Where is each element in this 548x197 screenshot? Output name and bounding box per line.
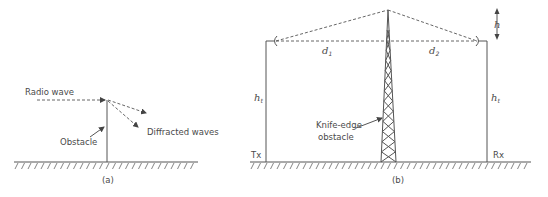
diffracted-path-tx xyxy=(276,10,388,41)
hatch-stroke xyxy=(394,163,397,169)
hatch-stroke xyxy=(15,163,18,169)
radio-wave-label: Radio wave xyxy=(25,87,74,97)
hatch-stroke xyxy=(271,163,274,169)
hatch-stroke xyxy=(433,163,436,169)
hatch-stroke xyxy=(87,163,90,169)
hatch-stroke xyxy=(316,163,319,169)
hatch-stroke xyxy=(145,163,148,169)
diffraction-diagram: Radio wave Diffracted waves Obstacle (a)… xyxy=(0,0,548,197)
hatch-stroke xyxy=(323,163,326,169)
hatch-stroke xyxy=(100,163,103,169)
hatch-stroke xyxy=(453,163,456,169)
h-label: h xyxy=(494,19,500,30)
hatch-stroke xyxy=(329,163,332,169)
hatch-stroke xyxy=(310,163,313,169)
ht-right-label: ht xyxy=(491,92,500,104)
h-arrow-down-icon xyxy=(495,34,500,40)
hatch-stroke xyxy=(290,163,293,169)
hatch-stroke xyxy=(80,163,83,169)
knife-edge-label-line2: obstacle xyxy=(318,132,354,142)
hatch-stroke xyxy=(61,163,64,169)
rx-antenna-pole xyxy=(479,41,487,162)
knife-edge-label-line1: Knife-edge xyxy=(316,120,362,130)
hatch-stroke xyxy=(22,163,25,169)
hatch-stroke xyxy=(184,163,187,169)
figure-b: d1 d2 h ht ht Tx Rx Knife-edge obstacle … xyxy=(250,8,531,185)
hatch-stroke xyxy=(165,163,168,169)
hatch-stroke xyxy=(388,163,391,169)
hatch-stroke xyxy=(362,163,365,169)
hatch-stroke xyxy=(171,163,174,169)
diffracted-waves-label: Diffracted waves xyxy=(147,127,219,137)
hatch-stroke xyxy=(258,163,261,169)
hatch-stroke xyxy=(41,163,44,169)
hatch-stroke xyxy=(28,163,31,169)
hatch-stroke xyxy=(466,163,469,169)
hatch-stroke xyxy=(113,163,116,169)
hatch-stroke xyxy=(35,163,38,169)
obstacle-pointer-arrow xyxy=(90,127,104,137)
hatch-stroke xyxy=(407,163,410,169)
knife-edge-tower xyxy=(381,10,396,162)
hatch-stroke xyxy=(368,163,371,169)
obstacle-label: Obstacle xyxy=(60,137,97,147)
hatch-stroke xyxy=(132,163,135,169)
hatch-stroke xyxy=(336,163,339,169)
hatch-stroke xyxy=(440,163,443,169)
hatch-stroke xyxy=(381,163,384,169)
d1-label: d1 xyxy=(322,45,332,57)
tx-label: Tx xyxy=(250,150,261,160)
hatch-stroke xyxy=(472,163,475,169)
hatch-stroke xyxy=(48,163,51,169)
hatch-stroke xyxy=(420,163,423,169)
d2-label: d2 xyxy=(429,45,439,57)
figure-a: Radio wave Diffracted waves Obstacle (a) xyxy=(14,87,219,185)
hatch-stroke xyxy=(505,163,508,169)
hatch-stroke xyxy=(414,163,417,169)
hatch-stroke xyxy=(264,163,267,169)
hatch-stroke xyxy=(191,163,194,169)
hatch-stroke xyxy=(459,163,462,169)
hatch-stroke xyxy=(158,163,161,169)
hatch-stroke xyxy=(524,163,527,169)
hatch-stroke xyxy=(479,163,482,169)
hatch-stroke xyxy=(349,163,352,169)
hatch-stroke xyxy=(446,163,449,169)
diffracted-path-rx xyxy=(388,10,477,41)
hatch-stroke xyxy=(139,163,142,169)
hatch-stroke xyxy=(67,163,70,169)
hatch-stroke xyxy=(106,163,109,169)
hatch-stroke xyxy=(518,163,521,169)
hatch-stroke xyxy=(74,163,77,169)
ground-hatch-a xyxy=(15,163,194,169)
hatch-stroke xyxy=(54,163,57,169)
caption-a: (a) xyxy=(102,175,114,185)
caption-b: (b) xyxy=(392,175,404,185)
tx-antenna-pole xyxy=(266,41,274,162)
hatch-stroke xyxy=(511,163,514,169)
hatch-stroke xyxy=(251,163,254,169)
hatch-stroke xyxy=(277,163,280,169)
hatch-stroke xyxy=(342,163,345,169)
hatch-stroke xyxy=(401,163,404,169)
hatch-stroke xyxy=(152,163,155,169)
hatch-stroke xyxy=(427,163,430,169)
hatch-stroke xyxy=(119,163,122,169)
hatch-stroke xyxy=(485,163,488,169)
hatch-stroke xyxy=(303,163,306,169)
hatch-stroke xyxy=(355,163,358,169)
ground-hatch-b xyxy=(251,163,527,169)
hatch-stroke xyxy=(284,163,287,169)
hatch-stroke xyxy=(178,163,181,169)
hatch-stroke xyxy=(492,163,495,169)
hatch-stroke xyxy=(375,163,378,169)
hatch-stroke xyxy=(93,163,96,169)
ht-left-label: ht xyxy=(254,92,263,104)
hatch-stroke xyxy=(297,163,300,169)
hatch-stroke xyxy=(498,163,501,169)
hatch-stroke xyxy=(126,163,129,169)
rx-label: Rx xyxy=(493,150,504,160)
h-arrow-up-icon xyxy=(495,8,500,14)
